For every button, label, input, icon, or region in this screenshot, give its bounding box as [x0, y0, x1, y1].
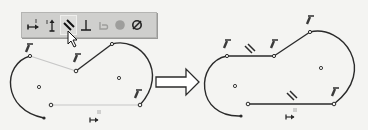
- fix-icon: [130, 18, 144, 32]
- tangent-glyph: [74, 54, 81, 62]
- vertical-dimension-icon: [44, 18, 58, 32]
- horizontal-constraint-button[interactable]: [26, 15, 42, 35]
- concentric-constraint-button[interactable]: [112, 15, 128, 35]
- horizontal-dimension-icon: [27, 18, 41, 32]
- left-arc[interactable]: [10, 56, 44, 118]
- right-arrow-icon: [156, 69, 199, 95]
- parallel-glyph: [287, 91, 297, 100]
- upper-left-line[interactable]: [30, 56, 76, 71]
- left-arc[interactable]: [205, 56, 241, 116]
- concentric-icon: [113, 18, 127, 32]
- sketch-before: [10, 42, 152, 122]
- parallel-glyph: [245, 44, 255, 53]
- horizontal-constraint-glyph: [90, 118, 99, 123]
- tangent-glyph: [271, 40, 278, 48]
- tangent-glyph: [307, 16, 314, 24]
- mouse-cursor-icon: [67, 30, 81, 48]
- constraint-toolbar: [21, 12, 157, 38]
- sketch-after: [205, 16, 355, 120]
- horizontal-constraint-glyph: [286, 115, 295, 120]
- tangent-glyph: [224, 40, 231, 48]
- tangent-glyph: [135, 90, 142, 98]
- vertical-constraint-button[interactable]: [43, 15, 59, 35]
- tangent-glyph: [332, 88, 339, 96]
- right-arc[interactable]: [112, 43, 152, 105]
- upper-right-line[interactable]: [76, 44, 112, 71]
- upper-slanted-line[interactable]: [274, 32, 310, 56]
- tangent-icon: [96, 18, 110, 32]
- tangent-glyph: [26, 44, 33, 52]
- fix-constraint-button[interactable]: [129, 15, 145, 35]
- tangent-constraint-button[interactable]: [95, 15, 111, 35]
- perpendicular-icon: [79, 18, 93, 32]
